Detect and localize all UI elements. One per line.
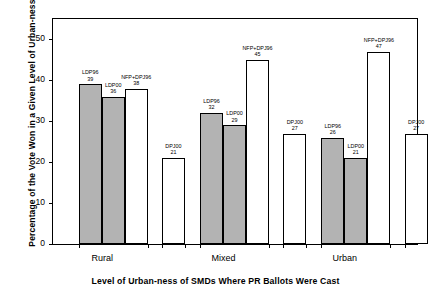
x-tick-mark [283, 244, 284, 248]
plot-area: 01020304050LDP9639LDP0036NFP+DPJ9638DPJ0… [52, 18, 418, 245]
x-tick-mark [200, 244, 201, 248]
bar-annotation-value: 29 [226, 117, 242, 123]
bar-annotation: DPJ0027 [287, 119, 303, 132]
x-axis-group-label: Urban [333, 253, 358, 263]
bar-rural-ldp96 [79, 84, 102, 244]
bar-annotation-value: 32 [203, 104, 219, 110]
bar-urban-ldp00 [344, 158, 367, 244]
x-axis-title: Level of Urban-ness of SMDs Where PR Bal… [0, 276, 431, 286]
bar-rural-ldp00 [102, 97, 125, 244]
x-tick-mark [148, 244, 149, 248]
bar-mixed-ldp00 [223, 125, 246, 244]
bar-rural-dpj00 [162, 158, 185, 244]
bar-annotation: LDP0036 [105, 82, 121, 95]
y-tick-mark [49, 39, 53, 40]
bar-annotation: LDP0029 [226, 110, 242, 123]
bar-annotation-value: 26 [325, 129, 341, 135]
bar-annotation: NFP+DPJ9647 [364, 37, 394, 50]
bar-annotation-value: 27 [408, 125, 424, 131]
bar-rural-nfp-dpj96 [125, 89, 148, 244]
bar-annotation-series: DPJ00 [408, 119, 424, 125]
bar-urban-nfp-dpj96 [367, 52, 390, 244]
bar-annotation: NFP+DPJ9638 [121, 74, 151, 87]
x-tick-mark [390, 244, 391, 248]
bar-annotation: NFP+DPJ9645 [242, 45, 272, 58]
bar-mixed-ldp96 [200, 113, 223, 244]
bar-annotation: LDP9626 [325, 123, 341, 136]
y-tick-label: 50 [25, 33, 45, 43]
y-tick-label: 20 [25, 156, 45, 166]
x-tick-mark [269, 244, 270, 248]
bar-chart-figure: Percentage of the Vote Won in a Given Le… [0, 0, 431, 294]
y-tick-mark [49, 162, 53, 163]
bar-annotation-series: LDP96 [203, 98, 219, 104]
y-tick-label: 0 [25, 238, 45, 248]
x-tick-mark [321, 244, 322, 248]
bar-annotation: LDP0021 [348, 143, 364, 156]
bar-annotation-series: DPJ00 [287, 119, 303, 125]
x-axis-group-label: Rural [91, 253, 113, 263]
bar-annotation-series: LDP00 [226, 110, 242, 116]
bar-annotation-value: 39 [82, 76, 98, 82]
bar-annotation-value: 21 [348, 149, 364, 155]
bar-urban-dpj00 [405, 134, 428, 244]
x-tick-mark [405, 244, 406, 248]
x-axis-group-label: Mixed [211, 253, 235, 263]
bar-annotation-value: 27 [287, 125, 303, 131]
x-tick-mark [162, 244, 163, 248]
x-tick-mark [185, 244, 186, 248]
bar-mixed-dpj00 [283, 134, 306, 244]
bar-annotation-series: NFP+DPJ96 [121, 74, 151, 80]
bar-annotation-series: DPJ00 [165, 143, 181, 149]
y-tick-mark [49, 80, 53, 81]
bar-annotation: DPJ0027 [408, 119, 424, 132]
bar-urban-ldp96 [321, 138, 344, 244]
bar-annotation: LDP9632 [203, 98, 219, 111]
bar-annotation-series: LDP96 [82, 69, 98, 75]
bar-annotation-value: 38 [121, 80, 151, 86]
bar-mixed-nfp-dpj96 [246, 60, 269, 244]
y-tick-label: 40 [25, 74, 45, 84]
x-tick-mark [306, 244, 307, 248]
x-tick-mark [79, 244, 80, 248]
y-tick-label: 10 [25, 197, 45, 207]
bar-annotation-series: LDP96 [325, 123, 341, 129]
bar-annotation-value: 45 [242, 51, 272, 57]
bar-annotation-series: LDP00 [348, 143, 364, 149]
bar-annotation-value: 36 [105, 88, 121, 94]
bar-annotation: LDP9639 [82, 69, 98, 82]
bar-annotation-value: 21 [165, 149, 181, 155]
y-tick-mark [49, 121, 53, 122]
bar-annotation-series: LDP00 [105, 82, 121, 88]
y-tick-mark [49, 203, 53, 204]
y-tick-mark [49, 244, 53, 245]
bar-annotation-series: NFP+DPJ96 [364, 37, 394, 43]
bar-annotation-series: NFP+DPJ96 [242, 45, 272, 51]
y-tick-label: 30 [25, 115, 45, 125]
bar-annotation: DPJ0021 [165, 143, 181, 156]
bar-annotation-value: 47 [364, 43, 394, 49]
